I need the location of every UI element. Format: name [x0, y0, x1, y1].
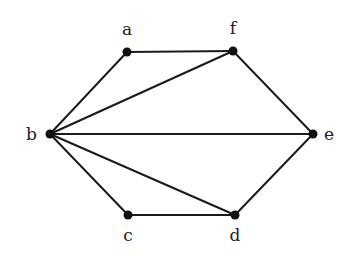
edge-d-e: [235, 134, 313, 215]
node-f: [229, 47, 238, 56]
edge-b-d: [50, 134, 235, 215]
node-a: [123, 48, 132, 57]
edge-f-e: [233, 51, 313, 134]
edges-group: [50, 51, 313, 215]
node-label-d: d: [230, 225, 241, 245]
node-e: [309, 130, 318, 139]
edge-a-b: [50, 52, 127, 134]
node-label-b: b: [26, 124, 37, 144]
node-d: [231, 211, 240, 220]
node-label-f: f: [230, 18, 238, 38]
node-label-a: a: [122, 19, 132, 39]
node-label-e: e: [324, 124, 334, 144]
node-b: [46, 130, 55, 139]
edge-a-f: [127, 51, 233, 52]
node-label-c: c: [123, 225, 133, 245]
edge-b-c: [50, 134, 128, 215]
node-c: [124, 211, 133, 220]
edge-b-f: [50, 51, 233, 134]
graph-diagram: afbecd: [0, 0, 353, 258]
